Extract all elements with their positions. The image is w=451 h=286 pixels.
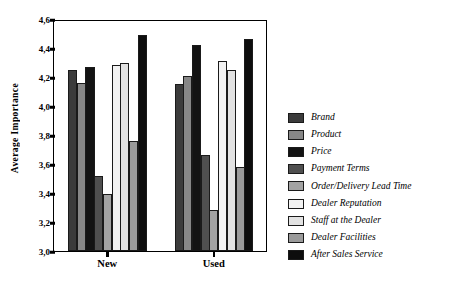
legend-item-label: Brand [311, 113, 335, 123]
legend-item-label: Product [311, 130, 341, 140]
legend-item[interactable]: After Sales Service [288, 247, 448, 264]
legend-swatch-icon [288, 199, 304, 209]
y-axis-tick-mark [50, 251, 55, 254]
legend-swatch-icon [288, 164, 304, 174]
y-axis-tick-label: 3,6 [39, 160, 50, 170]
legend-item[interactable]: Dealer Facilities [288, 229, 448, 246]
chart-legend: BrandProductPricePayment TermsOrder/Deli… [288, 109, 448, 264]
bar [209, 210, 218, 251]
y-axis-tick-label: 3,2 [39, 218, 50, 228]
y-axis-tick-label: 3,0 [39, 247, 50, 257]
legend-item-label: After Sales Service [311, 250, 383, 260]
x-axis-tick-mark [106, 252, 109, 257]
y-axis-tick-mark [50, 48, 55, 51]
y-axis-tick-mark [50, 77, 55, 80]
legend-swatch-icon [288, 216, 304, 226]
legend-item[interactable]: Order/Delivery Lead Time [288, 178, 448, 195]
legend-item[interactable]: Product [288, 126, 448, 143]
legend-item[interactable]: Staff at the Dealer [288, 212, 448, 229]
y-axis-title: Average Importance [6, 0, 24, 256]
plot-area [54, 20, 267, 252]
y-axis-tick-label: 3,8 [39, 131, 50, 141]
y-axis-tick-label: 3,4 [39, 189, 50, 199]
legend-item-label: Dealer Reputation [311, 199, 381, 209]
legend-item-label: Order/Delivery Lead Time [311, 182, 411, 192]
legend-item[interactable]: Payment Terms [288, 161, 448, 178]
legend-swatch-icon [288, 130, 304, 140]
x-axis-tick-mark [213, 252, 216, 257]
legend-item-label: Dealer Facilities [311, 233, 376, 243]
legend-item[interactable]: Dealer Reputation [288, 195, 448, 212]
bar-group-container [54, 21, 266, 251]
y-axis-tick-mark [50, 19, 55, 22]
legend-item[interactable]: Brand [288, 109, 448, 126]
bar [244, 39, 253, 251]
y-axis-tick-labels: 4,64,44,24,03,83,63,43,23,0 [24, 0, 50, 286]
y-axis-tick-label: 4,2 [39, 73, 50, 83]
bar [138, 35, 147, 251]
legend-swatch-icon [288, 181, 304, 191]
y-axis-tick-mark [50, 164, 55, 167]
y-axis-tick-mark [50, 193, 55, 196]
legend-swatch-icon [288, 147, 304, 157]
legend-swatch-icon [288, 113, 304, 123]
legend-item-label: Staff at the Dealer [311, 216, 381, 226]
bar-chart-figure: Average Importance 4,64,44,24,03,83,63,4… [0, 0, 451, 286]
x-axis-category-label: New [97, 258, 117, 269]
y-axis-title-text: Average Importance [10, 83, 20, 173]
y-axis-tick-label: 4,6 [39, 15, 50, 25]
legend-item-label: Price [311, 147, 332, 157]
legend-item[interactable]: Price [288, 143, 448, 160]
legend-swatch-icon [288, 233, 304, 243]
legend-item-label: Payment Terms [311, 164, 370, 174]
legend-swatch-icon [288, 250, 304, 260]
y-axis-tick-label: 4,4 [39, 44, 50, 54]
x-axis-category-label: Used [203, 258, 225, 269]
y-axis-tick-mark [50, 106, 55, 109]
y-axis-tick-mark [50, 135, 55, 138]
y-axis-tick-label: 4,0 [39, 102, 50, 112]
y-axis-tick-mark [50, 222, 55, 225]
bar [103, 194, 112, 251]
